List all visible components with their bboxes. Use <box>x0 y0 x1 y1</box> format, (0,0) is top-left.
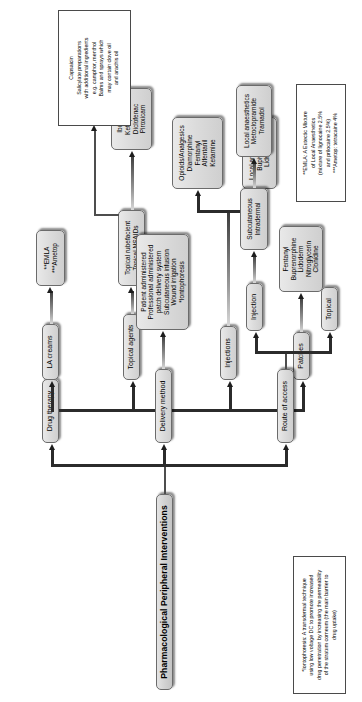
connector-to-drug-therapy <box>51 449 54 467</box>
topical-label: Topical <box>325 291 333 327</box>
la-creams-drugs-label: **EMLA ***Ametop <box>43 234 58 282</box>
node-patch-drugs[interactable]: Fentanyl Buprenorphine Lidoderm Nitrogly… <box>279 226 323 292</box>
connector-injections-to-opioids <box>197 194 200 213</box>
node-injection[interactable]: Injection <box>246 283 263 331</box>
connector-route-stub <box>285 353 287 369</box>
diagram-stage: Pharmacological Peripheral Interventions… <box>0 0 362 702</box>
arrow-injection-drugs <box>251 158 257 164</box>
connector-dt-injections <box>229 386 232 412</box>
arrow-la-creams-drugs <box>47 287 53 293</box>
arrow-route-of-access <box>283 444 289 450</box>
arrow-delivery-method <box>161 444 167 450</box>
connector-dt-topical-agents <box>132 386 135 412</box>
arrow-la-creams <box>49 381 55 387</box>
diagram-canvas: Pharmacological Peripheral Interventions… <box>0 0 362 702</box>
arrow-drug-therapy <box>49 444 55 450</box>
arrow-sc-id <box>251 251 257 257</box>
opioids-label: Opioids/Analgesics Diamorphine Fentanyl … <box>178 121 216 185</box>
node-opioids[interactable]: Opioids/Analgesics Diamorphine Fentanyl … <box>172 117 223 189</box>
root-label: Pharmacological Peripheral Interventions <box>159 498 169 686</box>
node-la-creams-drugs[interactable]: **EMLA ***Ametop <box>36 230 65 286</box>
connector-rubefacient-riser <box>94 214 119 216</box>
injections-label: Injections <box>224 330 232 376</box>
note-iontophoresis: *Iontophoresis: A transdermal technique … <box>293 556 346 694</box>
note-rubefacient-text: Capsaicin Salicylate preparations with a… <box>68 15 121 121</box>
node-patches[interactable]: Patches <box>293 332 310 380</box>
node-delivery-list[interactable]: Patient administered Professional admini… <box>136 234 189 330</box>
connector-to-delivery-method <box>163 449 166 467</box>
note-iontophoresis-text: *Iontophoresis: A transdermal technique … <box>301 561 339 689</box>
arrow-topical-agents <box>130 381 136 387</box>
sc-id-label: Subcutaneous Intradermal <box>246 192 261 246</box>
injection-label: Injection <box>250 287 258 327</box>
node-topical[interactable]: Topical <box>321 287 338 331</box>
connector-delivery-list <box>162 335 165 369</box>
note-rubefacient: Capsaicin Salicylate preparations with a… <box>58 10 131 126</box>
connector-to-route-of-access <box>285 449 288 467</box>
arrow-injection <box>253 332 259 338</box>
note-emla: **EMLA: A Eutectic Mixture of Local Anae… <box>296 84 346 202</box>
arrow-topical <box>327 332 333 338</box>
route-of-access-label: Route of access <box>281 373 289 439</box>
connector-root-trunk <box>164 466 166 494</box>
delivery-list-label: Patient administered Professional admini… <box>140 238 186 326</box>
arrow-patch-drugs <box>298 293 304 299</box>
topical-agents-label: Topical agents <box>127 318 135 376</box>
connector-root-spine <box>52 464 287 467</box>
delivery-method-label: Delivery method <box>159 373 167 439</box>
connector-topical-agents-classes <box>131 291 134 314</box>
connector-route-to-injection <box>255 336 258 354</box>
la-creams-label: LA creams <box>46 328 54 376</box>
node-injections[interactable]: Injections <box>220 326 237 380</box>
arrow-nsaid-drugs <box>129 151 135 157</box>
arrow-delivery-list <box>160 331 166 337</box>
arrow-opioids <box>195 190 201 196</box>
connector-nsaid-drugs <box>131 155 134 210</box>
node-sc-id[interactable]: Subcutaneous Intradermal <box>240 188 268 250</box>
patch-drugs-label: Fentanyl Buprenorphine Lidoderm Nitrogly… <box>282 230 320 288</box>
node-root-title: Pharmacological Peripheral Interventions <box>156 494 173 690</box>
injection-drugs-label: Local anaesthetics Metoclopramide Tramad… <box>243 89 266 153</box>
arrow-topical-classes <box>128 287 134 293</box>
arrow-injections <box>227 381 233 387</box>
connector-rubefacient-run <box>94 129 96 216</box>
connector-drug-therapy-spine <box>59 409 304 412</box>
node-route-of-access[interactable]: Route of access <box>277 369 294 443</box>
connector-la-creams-drugs <box>50 291 53 324</box>
node-injection-drugs[interactable]: Local anaesthetics Metoclopramide Tramad… <box>236 85 272 157</box>
arrow-patches <box>300 381 306 387</box>
node-delivery-method[interactable]: Delivery method <box>155 369 172 443</box>
connector-dt-patches <box>302 386 305 412</box>
connector-sc-id-drugs <box>253 162 256 188</box>
connector-route-to-topical <box>329 336 332 354</box>
connector-injections-split <box>227 212 230 326</box>
connector-injection-routes <box>253 255 256 283</box>
connector-dt-la-creams <box>51 386 54 412</box>
patches-label: Patches <box>297 336 305 376</box>
connector-patches-drugs <box>300 297 303 332</box>
node-la-creams[interactable]: LA creams <box>42 324 59 380</box>
note-emla-text: **EMLA: A Eutectic Mixture of Local Anae… <box>302 89 340 197</box>
connector-route-bracket <box>255 351 331 354</box>
